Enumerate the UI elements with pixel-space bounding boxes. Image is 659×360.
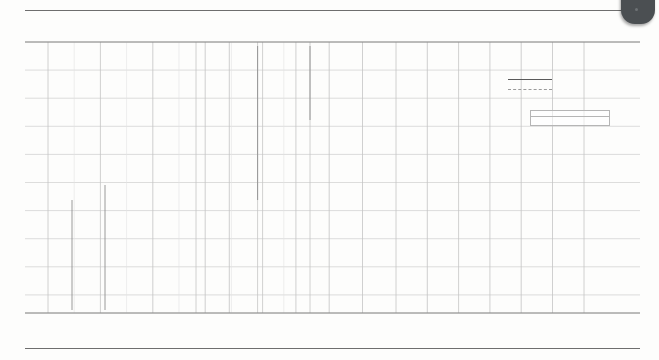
legend-swatch-neap-dashed — [508, 86, 552, 93]
height-gridlines-minor — [74, 42, 284, 313]
mean-ranges-neaps-row — [531, 121, 609, 125]
mean-ranges-box — [530, 110, 610, 126]
legend — [502, 74, 552, 94]
tidal-curve-page — [0, 0, 659, 360]
legend-swatch-spring-solid — [508, 76, 552, 83]
datum-marker-stems — [72, 46, 310, 310]
legend-row-spring — [502, 74, 552, 84]
legend-row-neap — [502, 84, 552, 94]
tidal-curve-chart — [0, 0, 659, 360]
